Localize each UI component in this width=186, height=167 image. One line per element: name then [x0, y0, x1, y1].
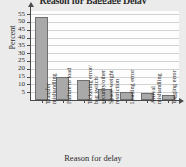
x-category-line: mishandling: [157, 73, 163, 104]
y-tick-label: 25: [5, 57, 25, 64]
y-tick-label: 30: [5, 50, 25, 57]
x-category-label: Failure to load: [66, 68, 72, 104]
x-axis-title: Reason for delay: [0, 153, 186, 163]
y-tick-mark: [27, 92, 31, 93]
gridline: [31, 30, 179, 31]
x-category-label: Ticketing error/bag switch/security/othe…: [87, 65, 106, 104]
y-tick-mark: [27, 77, 31, 78]
y-tick-mark: [27, 61, 31, 62]
x-category-line: security/other: [100, 65, 106, 104]
y-tick-label: 5: [5, 89, 25, 96]
y-tick-label: 55: [5, 11, 25, 18]
y-tick-mark: [27, 45, 31, 46]
y-tick-label: 50: [5, 18, 25, 25]
x-category-line: Loading error: [129, 70, 135, 104]
x-category-label: Arrivalmishandling: [150, 73, 163, 104]
gridline: [31, 61, 179, 62]
y-axis-arrow-icon: [28, 2, 34, 7]
x-category-line: Tagging error: [171, 70, 177, 104]
x-category-label: Transfermishandling: [45, 73, 58, 104]
x-category-line: restriction: [114, 70, 120, 104]
y-tick-mark: [27, 84, 31, 85]
y-tick-mark: [27, 53, 31, 54]
x-tick-mark: [63, 100, 64, 103]
y-tick-label: 45: [5, 26, 25, 33]
y-tick-label: 15: [5, 73, 25, 80]
bar-chart: Reason for Baggage Delay Percent 5101520…: [0, 0, 186, 167]
y-tick-mark: [27, 14, 31, 15]
gridline: [31, 14, 179, 15]
y-tick-mark: [27, 30, 31, 31]
y-tick-label: 20: [5, 65, 25, 72]
x-category-label: Space-weightrestriction: [108, 70, 121, 104]
gridline: [31, 45, 179, 46]
gridline: [31, 22, 179, 23]
gridline: [31, 38, 179, 39]
y-tick-label: 40: [5, 34, 25, 41]
x-tick-mark: [42, 100, 43, 103]
y-tick-label: 10: [5, 81, 25, 88]
gridline: [31, 53, 179, 54]
x-tick-mark: [126, 100, 127, 103]
y-tick-mark: [27, 69, 31, 70]
y-tick-mark: [27, 22, 31, 23]
x-tick-mark: [84, 100, 85, 103]
x-axis-arrow-icon: [179, 98, 184, 104]
x-category-line: Failure to load: [66, 68, 72, 104]
y-tick-label: 35: [5, 42, 25, 49]
x-category-line: mishandling: [51, 73, 57, 104]
x-category-label: Tagging error: [171, 70, 177, 104]
x-category-label: Loading error: [129, 70, 135, 104]
y-tick-mark: [27, 38, 31, 39]
